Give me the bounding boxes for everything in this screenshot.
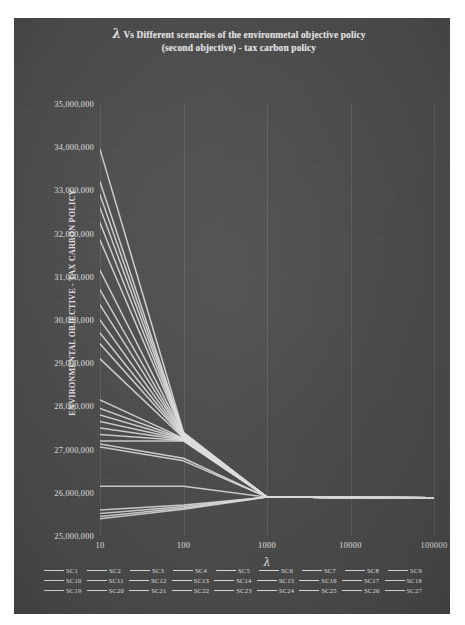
x-tick-label: 10000: [339, 541, 361, 550]
legend-item-sc8[interactable]: SC8: [345, 567, 379, 574]
legend-item-sc24[interactable]: SC24: [257, 587, 294, 594]
y-tick-label: 30,000,000: [54, 316, 94, 325]
legend-item-sc15[interactable]: SC15: [257, 577, 294, 584]
legend-swatch-icon: [44, 580, 64, 582]
legend-swatch-icon: [342, 590, 362, 592]
legend-item-sc3[interactable]: SC3: [130, 567, 164, 574]
legend-row: SC1SC2SC3SC4SC5SC6SC7SC8SC9: [44, 567, 422, 574]
legend-swatch-icon: [44, 570, 64, 572]
x-tick-label: 10: [96, 541, 105, 550]
gridline-vertical: [351, 104, 352, 536]
gridline-vertical: [434, 104, 435, 536]
legend-label: SC2: [109, 567, 121, 574]
gridline-vertical: [100, 104, 101, 536]
legend-item-sc14[interactable]: SC14: [214, 577, 251, 584]
legend-swatch-icon: [173, 570, 193, 572]
y-tick-label: 28,000,000: [54, 402, 94, 411]
legend-swatch-icon: [214, 590, 234, 592]
legend-swatch-icon: [345, 570, 365, 572]
legend-label: SC10: [66, 577, 81, 584]
legend-item-sc22[interactable]: SC22: [172, 587, 209, 594]
y-tick-label: 29,000,000: [54, 359, 94, 368]
legend-label: SC21: [151, 587, 166, 594]
legend-swatch-icon: [257, 590, 277, 592]
legend-swatch-icon: [342, 580, 362, 582]
legend-item-sc23[interactable]: SC23: [214, 587, 251, 594]
lambda-glyph: λ: [112, 27, 121, 41]
legend-label: SC11: [109, 577, 124, 584]
legend-label: SC12: [151, 577, 166, 584]
y-tick-label: 33,000,000: [54, 186, 94, 195]
legend-item-sc12[interactable]: SC12: [129, 577, 166, 584]
legend-swatch-icon: [87, 570, 107, 572]
legend-item-sc9[interactable]: SC9: [388, 567, 422, 574]
legend-item-sc2[interactable]: SC2: [87, 567, 121, 574]
legend-item-sc6[interactable]: SC6: [259, 567, 293, 574]
legend-label: SC8: [367, 567, 379, 574]
legend-item-sc11[interactable]: SC11: [87, 577, 124, 584]
legend-item-sc7[interactable]: SC7: [302, 567, 336, 574]
legend-label: SC23: [236, 587, 251, 594]
legend-swatch-icon: [302, 570, 322, 572]
legend-swatch-icon: [299, 590, 319, 592]
legend-label: SC17: [364, 577, 379, 584]
x-tick-label: 1000: [258, 541, 276, 550]
legend-item-sc13[interactable]: SC13: [172, 577, 209, 584]
legend-swatch-icon: [44, 590, 64, 592]
legend-swatch-icon: [87, 580, 107, 582]
legend-label: SC9: [410, 567, 422, 574]
legend-label: SC15: [279, 577, 294, 584]
x-tick-label: 100: [177, 541, 190, 550]
legend-label: SC4: [195, 567, 207, 574]
legend-item-sc1[interactable]: SC1: [44, 567, 78, 574]
y-tick-label: 34,000,000: [54, 143, 94, 152]
legend-swatch-icon: [172, 590, 192, 592]
legend-item-sc17[interactable]: SC17: [342, 577, 379, 584]
legend-item-sc21[interactable]: SC21: [129, 587, 166, 594]
y-tick-label: 27,000,000: [54, 445, 94, 454]
plot-area: 25,000,00026,000,00027,000,00028,000,000…: [100, 104, 434, 536]
legend-label: SC6: [281, 567, 293, 574]
legend-swatch-icon: [259, 570, 279, 572]
legend-swatch-icon: [385, 580, 405, 582]
chart-screenshot: λ Vs Different scenarios of the environm…: [0, 0, 465, 625]
legend-item-sc5[interactable]: SC5: [216, 567, 250, 574]
legend-label: SC3: [152, 567, 164, 574]
legend-label: SC19: [66, 587, 81, 594]
chart-title-line-1: Vs Different scenarios of the environmet…: [123, 30, 298, 40]
legend-label: SC5: [238, 567, 250, 574]
gridline-vertical: [267, 104, 268, 536]
legend-label: SC25: [321, 587, 336, 594]
legend-item-sc16[interactable]: SC16: [299, 577, 336, 584]
y-tick-label: 25,000,000: [54, 532, 94, 541]
legend-swatch-icon: [172, 580, 192, 582]
legend-swatch-icon: [299, 580, 319, 582]
chart-title: λ Vs Different scenarios of the environm…: [104, 28, 374, 54]
y-axis-title: ENVIRONMENTAL OBJECTIVE - TAX CARBON POL…: [68, 168, 77, 438]
legend-label: SC7: [324, 567, 336, 574]
legend-item-sc19[interactable]: SC19: [44, 587, 81, 594]
legend-label: SC27: [407, 587, 422, 594]
x-tick-label: 100000: [421, 541, 448, 550]
y-tick-label: 26,000,000: [54, 488, 94, 497]
legend-label: SC13: [194, 577, 209, 584]
legend-item-sc10[interactable]: SC10: [44, 577, 81, 584]
legend-item-sc4[interactable]: SC4: [173, 567, 207, 574]
legend-row: SC19SC20SC21SC22SC23SC24SC25SC26SC27: [44, 587, 422, 594]
legend-label: SC1: [66, 567, 78, 574]
legend-row: SC10SC11SC12SC13SC14SC15SC16SC17SC18: [44, 577, 422, 584]
legend-swatch-icon: [130, 570, 150, 572]
legend-label: SC20: [109, 587, 124, 594]
legend-item-sc20[interactable]: SC20: [87, 587, 124, 594]
legend-item-sc18[interactable]: SC18: [385, 577, 422, 584]
y-tick-label: 35,000,000: [54, 100, 94, 109]
legend-swatch-icon: [214, 580, 234, 582]
legend-item-sc27[interactable]: SC27: [385, 587, 422, 594]
y-tick-label: 31,000,000: [54, 272, 94, 281]
chart-title-line-3: policy: [291, 43, 316, 53]
legend-label: SC16: [321, 577, 336, 584]
legend-item-sc25[interactable]: SC25: [299, 587, 336, 594]
legend-swatch-icon: [216, 570, 236, 572]
legend-label: SC24: [279, 587, 294, 594]
legend-item-sc26[interactable]: SC26: [342, 587, 379, 594]
